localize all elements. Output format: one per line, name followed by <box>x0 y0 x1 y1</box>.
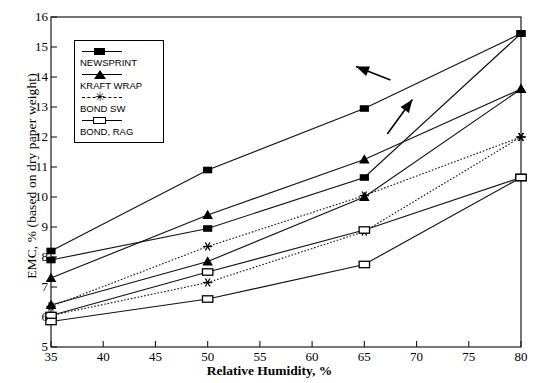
arrow-desorption <box>356 66 390 80</box>
legend-symbol-bond-sw: ✳ <box>80 92 158 103</box>
series-bond-rag-lower <box>46 174 526 324</box>
legend-symbol-newsprint <box>80 46 158 57</box>
marker-filled-square <box>360 174 369 181</box>
series-line <box>51 178 521 316</box>
arrow-head <box>356 66 370 76</box>
legend-item-newsprint: NEWSPRINT <box>80 46 158 68</box>
y-axis-title: EMC, % (based on dry paper weight) <box>24 26 40 326</box>
marker-filled-square <box>516 30 525 37</box>
series-bond-sw-lower <box>46 133 525 319</box>
legend-label-bond-rag: BOND, RAG <box>80 126 158 137</box>
legend-symbol-kraft-wrap <box>80 69 158 80</box>
marker-filled-triangle <box>359 154 370 163</box>
series-bond-sw-upper <box>46 133 525 310</box>
series-line <box>51 137 521 307</box>
y-tick-label: 16 <box>24 9 48 25</box>
arrow-adsorption <box>387 100 412 135</box>
legend-label-kraft-wrap: KRAFT WRAP <box>80 80 158 91</box>
legend-item-kraft-wrap: KRAFT WRAP <box>80 69 158 91</box>
marker-filled-square <box>203 167 212 174</box>
filled-square-icon <box>94 48 105 55</box>
marker-open-rect <box>202 269 212 275</box>
marker-filled-square <box>360 105 369 112</box>
arrow-head <box>401 100 413 114</box>
legend-label-newsprint: NEWSPRINT <box>80 57 158 68</box>
legend-symbol-bond-rag <box>80 115 158 126</box>
marker-filled-triangle <box>516 84 527 93</box>
legend: NEWSPRINT KRAFT WRAP ✳ BOND SW BOND, RAG <box>74 40 164 143</box>
x-axis-title: Relative Humidity, % <box>0 363 539 379</box>
marker-filled-triangle <box>202 210 213 219</box>
marker-open-rect <box>516 174 526 180</box>
open-rect-icon <box>93 117 106 124</box>
marker-open-rect <box>202 296 212 302</box>
marker-open-rect <box>359 261 369 267</box>
series-line <box>51 137 521 316</box>
marker-open-rect <box>359 227 369 233</box>
legend-item-bond-sw: ✳ BOND SW <box>80 92 158 114</box>
marker-filled-square <box>203 225 212 232</box>
chart-container: 5678910111213141516 35404550556065707580… <box>0 0 539 383</box>
filled-triangle-icon <box>94 70 106 79</box>
asterisk-icon: ✳ <box>95 92 105 103</box>
marker-filled-triangle <box>202 256 213 265</box>
legend-item-bond-rag: BOND, RAG <box>80 115 158 137</box>
legend-label-bond-sw: BOND SW <box>80 103 158 114</box>
